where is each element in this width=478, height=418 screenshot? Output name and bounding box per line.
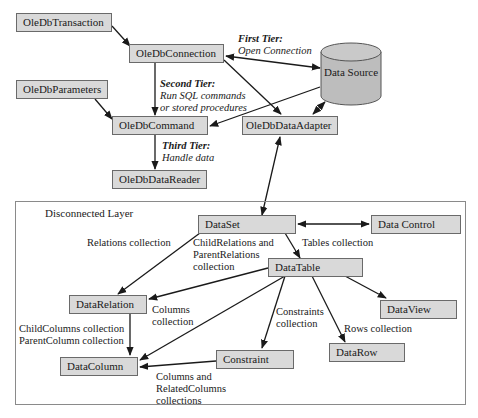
third-tier-desc: Handle data (162, 152, 214, 164)
constraint-box: Constraint (216, 350, 294, 369)
rows-collection-label: Rows collection (344, 323, 412, 335)
dataset-box: DataSet (198, 215, 296, 234)
child-parent-relations-label-3: collection (193, 261, 234, 273)
child-columns-label: ChildColumns collection (19, 323, 124, 335)
arrow-connection-datasource (226, 56, 320, 68)
data-source-label: Data Source (324, 66, 378, 78)
arrow-adapter-datasource (313, 102, 325, 114)
first-tier-desc: Open Connection (238, 45, 312, 57)
oledb-parameters-box: OleDbParameters (16, 80, 108, 99)
second-tier-desc-2: or stored procedures (160, 102, 247, 114)
child-parent-relations-label-1: ChildRelations and (193, 237, 274, 249)
oledb-command-box: OleDbCommand (112, 116, 208, 135)
child-parent-relations-label-2: ParentRelations (193, 249, 260, 261)
oledb-transaction-box: OleDbTransaction (16, 13, 112, 32)
datatable-box: DataTable (268, 258, 363, 277)
data-control-box: Data Control (371, 215, 461, 234)
columns-related-label-2: RelatedColumns (156, 383, 226, 395)
relations-collection-label: Relations collection (87, 237, 171, 249)
columns-collection-label-2: collection (152, 316, 193, 328)
arrow-parameters-command (95, 99, 112, 119)
datacolumn-box: DataColumn (60, 357, 138, 376)
second-tier-title: Second Tier: (160, 78, 215, 90)
columns-related-label-3: collections (156, 395, 202, 407)
parent-column-label: ParentColumn collection (19, 335, 124, 347)
constraints-collection-label-1: Constraints (276, 306, 324, 318)
constraints-collection-label-2: collection (276, 318, 317, 330)
columns-collection-label-1: Columns (152, 304, 190, 316)
oledb-data-adapter-box: OleDbDataAdapter (242, 116, 338, 135)
oledb-data-reader-box: OleDbDataReader (112, 170, 207, 189)
third-tier-title: Third Tier: (162, 140, 210, 152)
arrow-transaction-connection (112, 26, 130, 46)
columns-related-label-1: Columns and (156, 371, 212, 383)
disconnected-layer-title: Disconnected Layer (45, 207, 133, 219)
tables-collection-label: Tables collection (302, 237, 373, 249)
datarelation-box: DataRelation (69, 295, 147, 314)
second-tier-desc-1: Run SQL commands (160, 90, 246, 102)
datarow-box: DataRow (329, 343, 405, 362)
dataview-box: DataView (380, 300, 457, 319)
oledb-connection-box: OleDbConnection (129, 44, 224, 63)
first-tier-title: First Tier: (238, 33, 283, 45)
